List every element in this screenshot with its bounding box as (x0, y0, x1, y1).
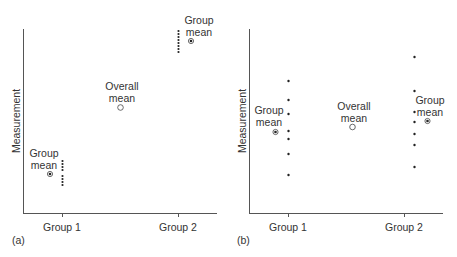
svg-text:mean: mean (256, 116, 282, 128)
svg-text:Overall: Overall (337, 100, 370, 112)
panel-a: Group 1 Group 2 Measurement (a) Group me… (10, 14, 217, 246)
svg-text:mean: mean (341, 112, 367, 124)
panel-label-a: (a) (12, 234, 25, 246)
overall-mean: Overall mean (105, 80, 138, 110)
svg-text:Group: Group (29, 147, 58, 159)
overall-mean: Overall mean (337, 100, 370, 130)
group-1-points (61, 160, 63, 186)
x-tick-label-group-2: Group 2 (385, 221, 423, 233)
group-1-points (287, 80, 289, 176)
y-axis-label: Measurement (236, 89, 248, 153)
svg-text:Group: Group (415, 94, 444, 106)
svg-text:Group: Group (254, 104, 283, 116)
group-mean-1: Group mean (254, 104, 283, 135)
svg-text:Overall: Overall (105, 80, 138, 92)
svg-text:mean: mean (31, 159, 57, 171)
x-tick-label-group-1: Group 1 (269, 221, 307, 233)
svg-text:mean: mean (109, 92, 135, 104)
group-2-points (177, 30, 179, 53)
svg-text:mean: mean (186, 26, 212, 38)
svg-text:mean: mean (417, 106, 443, 118)
figure: Group 1 Group 2 Measurement (a) Group me… (0, 0, 457, 257)
group-mean-2: Group mean (415, 94, 444, 124)
x-tick-label-group-1: Group 1 (43, 221, 81, 233)
group-mean-1: Group mean (29, 147, 58, 177)
panel-label-b: (b) (237, 234, 250, 246)
svg-text:Group: Group (184, 14, 213, 26)
y-axis-label: Measurement (10, 89, 22, 153)
panel-b: Group 1 Group 2 Measurement (b) Group me… (236, 29, 445, 246)
x-tick-label-group-2: Group 2 (159, 221, 197, 233)
group-mean-2: Group mean (184, 14, 213, 44)
group-2-points (413, 56, 415, 168)
